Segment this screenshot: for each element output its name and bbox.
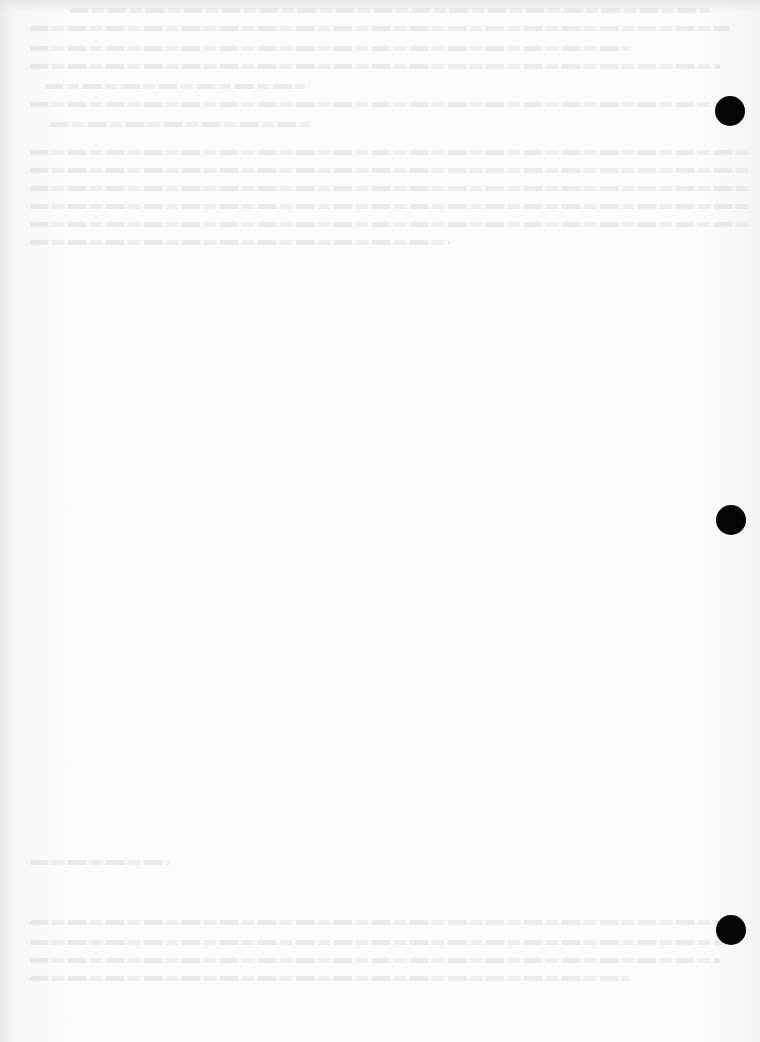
ghost-text-line — [30, 46, 630, 51]
ghost-text-line — [45, 84, 305, 89]
ghost-text-line — [30, 26, 730, 31]
ghost-text-line — [30, 168, 750, 173]
ghost-text-line — [50, 122, 310, 127]
ghost-text-line — [30, 940, 730, 945]
ghost-text-line — [30, 240, 450, 245]
ghost-text-line — [70, 8, 710, 13]
ghost-text-line — [30, 222, 750, 227]
ghost-text-line — [30, 204, 750, 209]
ghost-text-line — [30, 958, 720, 963]
scanned-page — [0, 0, 760, 1042]
punch-hole — [715, 96, 745, 126]
ghost-text-line — [30, 102, 720, 107]
ghost-text-line — [30, 64, 720, 69]
ghost-text-line — [30, 860, 170, 865]
ghost-text-line — [30, 976, 630, 981]
ghost-text-line — [30, 150, 750, 155]
punch-hole — [716, 915, 746, 945]
ghost-text-line — [30, 920, 730, 925]
ghost-text-line — [30, 186, 750, 191]
punch-hole — [716, 505, 746, 535]
